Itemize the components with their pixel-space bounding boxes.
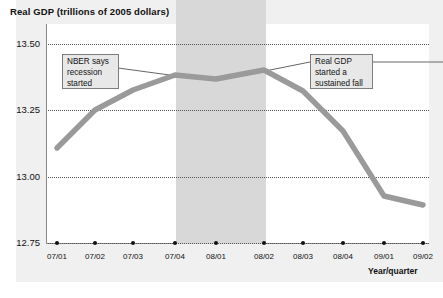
chart-svg bbox=[0, 0, 443, 298]
annotation-left-line2: recession bbox=[67, 68, 114, 79]
annotation-left-line3: started bbox=[67, 79, 114, 90]
chart-figure: Real GDP (trillions of 2005 dollars) 13.… bbox=[0, 0, 443, 298]
annotation-right-line3: sustained fall bbox=[315, 79, 368, 90]
annotation-right-line1: Real GDP bbox=[315, 57, 368, 68]
real-gdp-line bbox=[57, 70, 423, 205]
annotation-sustained-fall: Real GDP started a sustained fall bbox=[310, 54, 373, 89]
annotation-right-line2: started a bbox=[315, 68, 368, 79]
leader-line-right bbox=[265, 62, 310, 71]
annotation-left-line1: NBER says bbox=[67, 57, 114, 68]
annotation-nber-recession: NBER says recession started bbox=[62, 54, 119, 89]
